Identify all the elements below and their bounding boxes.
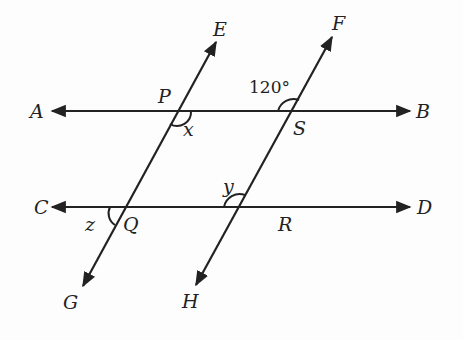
angle-y-label: y — [222, 175, 234, 197]
label-a: A — [28, 100, 44, 122]
angle-120-label: 120° — [249, 77, 290, 97]
angle-z-label: z — [84, 213, 96, 235]
geometry-diagram: A B C D E F G H P Q R S x y z 120° — [0, 0, 463, 340]
label-r: R — [277, 213, 292, 235]
label-b: B — [415, 100, 430, 122]
label-e: E — [212, 18, 227, 40]
line-eg — [83, 42, 216, 286]
label-s: S — [293, 117, 306, 139]
angle-z-arc — [109, 207, 115, 225]
angle-x-label: x — [183, 118, 194, 140]
label-f: F — [331, 12, 346, 34]
label-q: Q — [123, 213, 139, 235]
line-fh — [196, 37, 332, 285]
label-p: P — [157, 85, 172, 107]
label-g: G — [63, 291, 78, 313]
label-c: C — [34, 196, 49, 218]
label-h: H — [181, 290, 199, 312]
label-d: D — [416, 196, 432, 218]
